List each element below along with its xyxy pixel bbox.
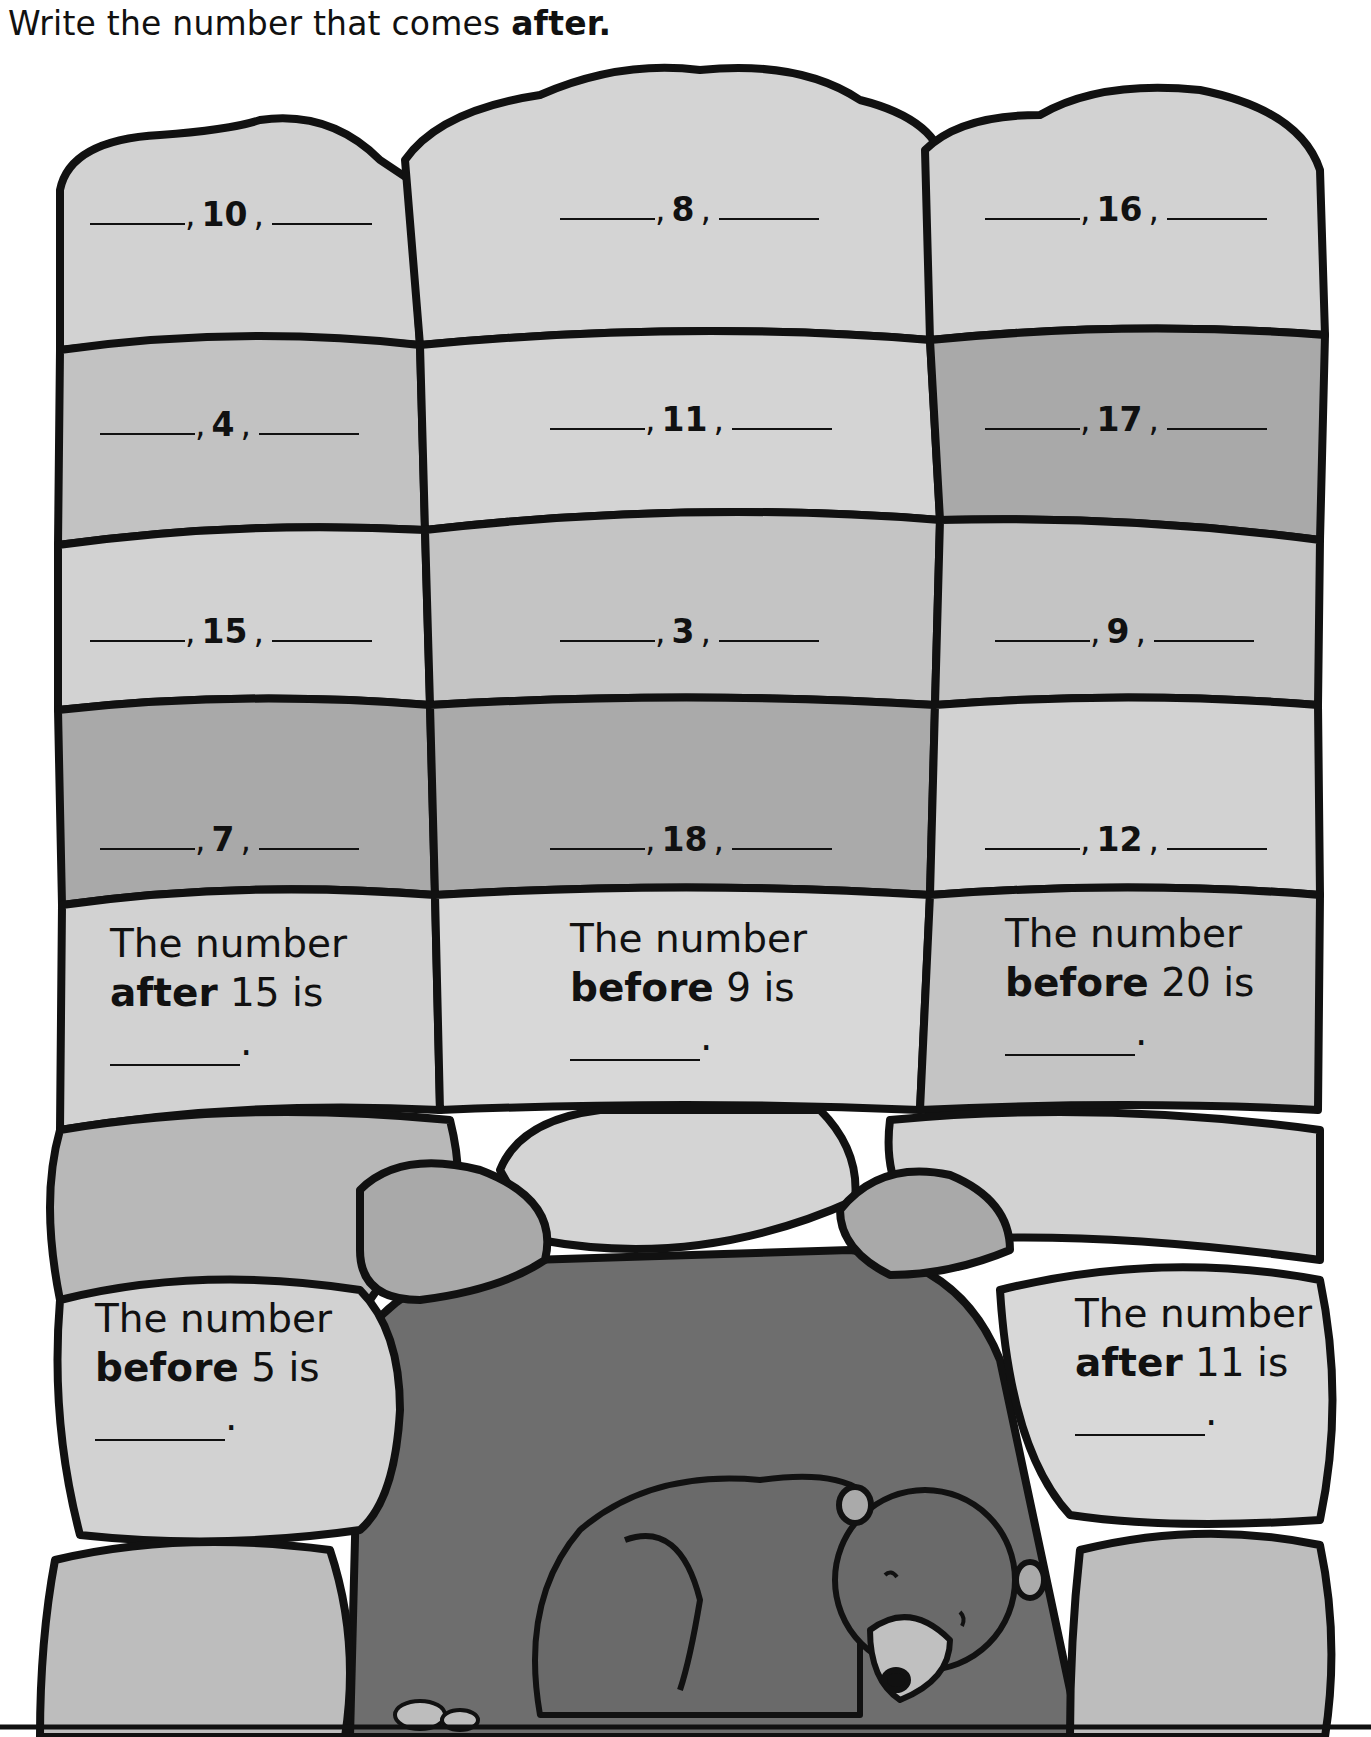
answer-blank[interactable] <box>110 1064 240 1066</box>
cave-illustration <box>0 0 1371 1737</box>
answer-blank[interactable] <box>570 1059 700 1061</box>
sequence-r1c3: ,16, <box>985 190 1267 229</box>
sequence-r1c2: ,8, <box>560 190 819 229</box>
answer-blank[interactable] <box>90 639 185 642</box>
arch-center <box>500 1110 856 1249</box>
answer-blank[interactable] <box>1167 217 1267 220</box>
sequence-r2c3: ,17, <box>985 400 1267 439</box>
answer-blank[interactable] <box>95 1439 225 1441</box>
prompt-after-11: The number after 11 is . <box>1075 1290 1312 1436</box>
bear-ear-right <box>1016 1562 1044 1598</box>
answer-blank[interactable] <box>272 639 372 642</box>
sequence-r3c1: ,15, <box>90 612 372 651</box>
answer-blank[interactable] <box>560 639 655 642</box>
answer-blank[interactable] <box>1167 427 1267 430</box>
sequence-r4c2: ,18, <box>550 820 832 859</box>
answer-blank[interactable] <box>550 847 645 850</box>
bear-nose <box>884 1670 908 1690</box>
answer-blank[interactable] <box>995 639 1090 642</box>
answer-blank[interactable] <box>100 432 195 435</box>
answer-blank[interactable] <box>732 847 832 850</box>
answer-blank[interactable] <box>732 427 832 430</box>
stone-r4c3 <box>930 698 1320 896</box>
sequence-r4c3: ,12, <box>985 820 1267 859</box>
stone-base-left <box>40 1542 350 1737</box>
answer-blank[interactable] <box>1154 639 1254 642</box>
answer-blank[interactable] <box>272 222 372 225</box>
answer-blank[interactable] <box>719 639 819 642</box>
answer-blank[interactable] <box>719 217 819 220</box>
stone-r4c2 <box>430 698 935 896</box>
answer-blank[interactable] <box>985 217 1080 220</box>
prompt-before-9: The number before 9 is . <box>570 915 807 1061</box>
answer-blank[interactable] <box>550 427 645 430</box>
stone-r4c1 <box>58 699 435 905</box>
sequence-r2c2: ,11, <box>550 400 832 439</box>
sequence-r4c1: ,7, <box>100 820 359 859</box>
answer-blank[interactable] <box>985 427 1080 430</box>
answer-blank[interactable] <box>259 847 359 850</box>
answer-blank[interactable] <box>560 217 655 220</box>
prompt-before-5: The number before 5 is . <box>95 1295 332 1441</box>
prompt-before-20: The number before 20 is . <box>1005 910 1254 1056</box>
answer-blank[interactable] <box>985 847 1080 850</box>
answer-blank[interactable] <box>1167 847 1267 850</box>
answer-blank[interactable] <box>100 847 195 850</box>
stone-r1c1 <box>60 118 420 350</box>
answer-blank[interactable] <box>90 222 185 225</box>
answer-blank[interactable] <box>1005 1054 1135 1056</box>
stone-r3c2 <box>425 512 940 705</box>
answer-blank[interactable] <box>1075 1434 1205 1436</box>
stone-base-right <box>1070 1534 1331 1737</box>
bear-ear-left <box>839 1487 871 1523</box>
answer-blank[interactable] <box>259 432 359 435</box>
sequence-r2c1: ,4, <box>100 405 359 444</box>
sequence-r1c1: ,10, <box>90 195 372 234</box>
sequence-r3c3: ,9, <box>995 612 1254 651</box>
prompt-after-15: The number after 15 is . <box>110 920 347 1066</box>
sequence-r3c2: ,3, <box>560 612 819 651</box>
